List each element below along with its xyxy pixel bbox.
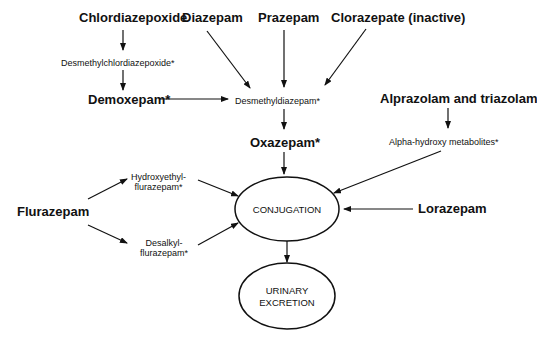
arrow-hydroxyethylflurazepam-to-conjugation — [198, 180, 238, 196]
node-diazepam: Diazepam — [182, 11, 243, 26]
arrow-diazepam-to-desmethyldiazepam — [207, 31, 250, 88]
node-oxazepam: Oxazepam* — [250, 136, 320, 151]
arrow-flurazepam-to-desalkylflurazepam — [88, 225, 127, 243]
node-chlordiazepoxide: Chlordiazepoxide — [79, 11, 187, 26]
metabolism-flowchart: CONJUGATIONURINARYEXCRETION Chlordiazepo… — [0, 0, 537, 348]
ellipse-label: URINARY — [266, 285, 309, 296]
node-alprazolam_triazolam: Alprazolam and triazolam — [380, 92, 537, 107]
arrow-alpha_hydroxy-to-conjugation — [334, 151, 441, 193]
arrow-clorazepate-to-desmethyldiazepam — [325, 29, 366, 85]
ellipse-label: CONJUGATION — [253, 204, 322, 215]
node-flurazepam: Flurazepam — [17, 205, 89, 220]
ellipse-node-urinary_excretion: URINARYEXCRETION — [239, 263, 335, 329]
ellipse-node-conjugation: CONJUGATION — [235, 177, 339, 241]
node-demoxepam: Demoxepam* — [88, 93, 170, 108]
node-desmethylchlordiazepoxide: Desmethylchlordiazepoxide* — [61, 58, 175, 68]
ellipse-label: EXCRETION — [259, 297, 315, 308]
node-prazepam: Prazepam — [258, 11, 319, 26]
arrow-flurazepam-to-hydroxyethylflurazepam — [88, 179, 127, 199]
node-desmethyldiazepam: Desmethyldiazepam* — [235, 96, 320, 106]
flowchart-arrows: CONJUGATIONURINARYEXCRETION — [0, 0, 537, 348]
node-alpha_hydroxy: Alpha-hydroxy metabolites* — [389, 137, 499, 147]
node-desalkylflurazepam: Desalkyl-flurazepam* — [140, 238, 188, 259]
node-hydroxyethylflurazepam: Hydroxyethyl-flurazepam* — [131, 172, 186, 193]
node-clorazepate: Clorazepate (inactive) — [331, 11, 465, 26]
arrow-desalkylflurazepam-to-conjugation — [198, 223, 238, 245]
node-lorazepam: Lorazepam — [418, 202, 487, 217]
